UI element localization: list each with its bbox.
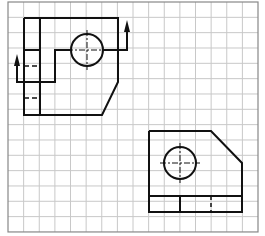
grid-background bbox=[8, 2, 258, 232]
technical-drawing bbox=[0, 0, 265, 236]
section-arrow-icon bbox=[14, 54, 20, 66]
section-arrow-icon bbox=[124, 20, 130, 32]
